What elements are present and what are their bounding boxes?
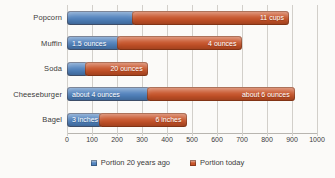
category-label: Popcorn [0, 5, 62, 31]
bar-data-label: 11 cups [255, 14, 289, 21]
bar-segment: 4 ounces [117, 36, 242, 50]
x-axis-tick-label: 900 [286, 136, 298, 143]
x-axis-tick-label: 0 [65, 136, 69, 143]
bar-segment: 6 inches [99, 113, 187, 127]
bar-row: 1.5 ounces4 ounces [67, 31, 317, 57]
value-axis: 01002003004005006007008009001000 [67, 136, 317, 146]
bar-segment: 20 ounces [85, 62, 148, 76]
legend-marker [91, 160, 97, 166]
bar-data-label: 6 inches [150, 116, 186, 123]
legend-label: Portion today [200, 158, 244, 167]
legend: Portion 20 years agoPortion today [0, 158, 335, 167]
x-axis-tick-label: 800 [261, 136, 273, 143]
x-axis-tick-label: 600 [211, 136, 223, 143]
bar-row: 3 inches6 inches [67, 107, 317, 133]
legend-item: Portion 20 years ago [91, 158, 170, 167]
plot-area: 11 cups1.5 ounces4 ounces20 ouncesabout … [67, 5, 317, 134]
bar-segment [67, 11, 135, 25]
category-label: Soda [0, 56, 62, 82]
category-label: Muffin [0, 31, 62, 57]
bar-segment: about 6 ounces [147, 87, 295, 101]
legend-item: Portion today [190, 158, 244, 167]
bar-data-label: 3 inches [67, 116, 102, 123]
category-label: Cheeseburger [0, 82, 62, 108]
bar-segment: 1.5 ounces [67, 36, 120, 50]
bar-data-label: 20 ounces [105, 65, 147, 72]
bar-segment: about 4 ounces [67, 87, 150, 101]
legend-label: Portion 20 years ago [101, 158, 170, 167]
gridline [317, 5, 318, 136]
x-axis-tick-label: 100 [86, 136, 98, 143]
x-axis-tick-label: 700 [236, 136, 248, 143]
bar-data-label: about 6 ounces [237, 91, 295, 98]
bar-data-label: about 4 ounces [67, 91, 125, 98]
x-axis-tick-label: 300 [136, 136, 148, 143]
bar-row: about 4 ouncesabout 6 ounces [67, 82, 317, 108]
category-label: Bagel [0, 107, 62, 133]
legend-marker [190, 160, 196, 166]
bar-data-label: 4 ounces [203, 40, 241, 47]
x-axis-tick-label: 400 [161, 136, 173, 143]
portion-size-chart: PopcornMuffinSodaCheeseburgerBagel 11 cu… [0, 0, 335, 178]
bar-data-label: 1.5 ounces [67, 40, 111, 47]
x-axis-tick-label: 500 [186, 136, 198, 143]
category-axis: PopcornMuffinSodaCheeseburgerBagel [0, 5, 62, 133]
x-axis-tick-label: 1000 [309, 136, 325, 143]
x-axis-tick-label: 200 [111, 136, 123, 143]
bar-row: 20 ounces [67, 56, 317, 82]
bar-segment: 3 inches [67, 113, 102, 127]
bar-segment: 11 cups [132, 11, 290, 25]
bar-row: 11 cups [67, 5, 317, 31]
